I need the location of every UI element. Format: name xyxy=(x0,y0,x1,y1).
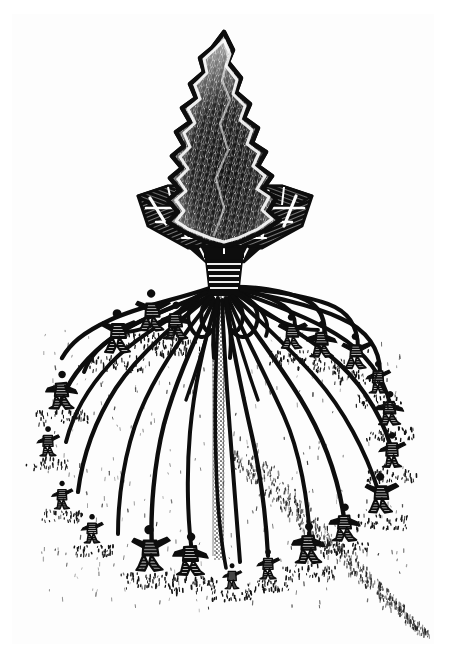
woodcut-illustration xyxy=(0,0,449,659)
neck-binding xyxy=(204,256,244,294)
flame xyxy=(150,28,300,253)
illustration-canvas xyxy=(0,0,449,659)
